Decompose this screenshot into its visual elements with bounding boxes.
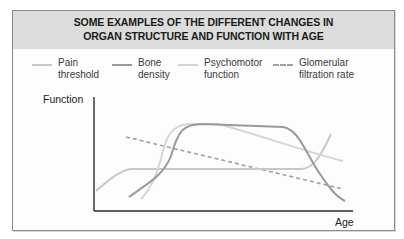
plot-area [13,11,394,230]
series-pain-threshold [96,134,331,191]
figure-box: SOME EXAMPLES OF THE DIFFERENT CHANGES I… [12,10,395,231]
series-glomerular-filtration-rate [126,137,343,189]
series-bone-density [129,124,345,201]
